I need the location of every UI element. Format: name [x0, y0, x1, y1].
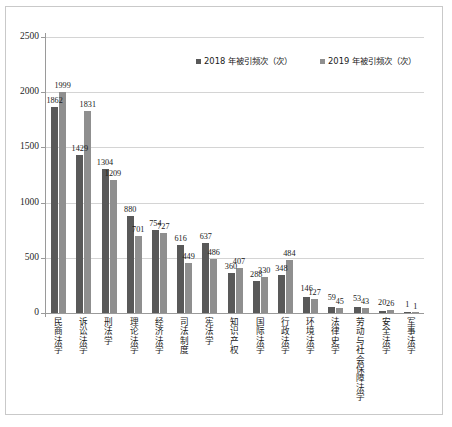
x-axis-category-label: 行政法学 [278, 317, 287, 355]
x-axis-category: 经济法学 [152, 317, 166, 359]
x-axis-category: 司法制度 [178, 317, 192, 359]
bar-value-label: 1429 [69, 145, 91, 153]
bar-group [51, 37, 66, 313]
bar-value-label: 1862 [44, 97, 66, 105]
bar-group [76, 37, 91, 313]
legend-item-2019[interactable]: 2019 年被引频次（次） [320, 57, 416, 66]
bar-group [354, 37, 369, 313]
grouped-bar-chart: 05001000150020002500 2018 年被引频次（次） 2019 … [0, 0, 452, 427]
bar-group [177, 37, 192, 313]
x-axis-category: 宪法学 [203, 317, 217, 349]
bar-group [228, 37, 243, 313]
bar-2019[interactable] [236, 268, 243, 313]
y-axis-tick-label: 2500 [20, 32, 39, 42]
x-axis-category-label: 国际法学 [253, 317, 262, 355]
bar-value-label: 1999 [52, 82, 74, 90]
y-axis-labels: 05001000150020002500 [0, 0, 39, 427]
x-axis-category-label: 军事法学 [404, 317, 413, 355]
bar-2018[interactable] [354, 307, 361, 313]
bar-2019[interactable] [387, 310, 394, 313]
x-axis-category-label: 法律史学 [329, 317, 338, 355]
x-axis-category: 行政法学 [278, 317, 292, 359]
y-axis-tick [41, 313, 45, 314]
x-axis-category-label: 知识产权 [228, 317, 237, 355]
x-axis-category: 刑法学 [102, 317, 116, 349]
x-axis-category: 安全法学 [379, 317, 393, 359]
bar-value-label: 1209 [102, 170, 124, 178]
bar-2018[interactable] [303, 297, 310, 313]
bar-2019[interactable] [135, 236, 142, 313]
bar-group [404, 37, 419, 313]
x-axis-category-label: 司法制度 [178, 317, 187, 355]
x-axis-category-label: 理论法学 [127, 317, 136, 355]
y-axis-tick [41, 92, 45, 93]
bar-2019[interactable] [336, 308, 343, 313]
x-axis-category-label: 安全法学 [379, 317, 388, 355]
bar-2018[interactable] [379, 311, 386, 313]
bar-value-label: 880 [119, 206, 141, 214]
x-axis-category: 环境法学 [304, 317, 318, 359]
x-axis-category: 国际法学 [253, 317, 267, 359]
bar-2018[interactable] [76, 155, 83, 313]
bar-2018[interactable] [404, 312, 411, 313]
bar-group [303, 37, 318, 313]
bar-value-label: 407 [228, 258, 250, 266]
bar-2018[interactable] [102, 169, 109, 313]
bar-2018[interactable] [228, 273, 235, 313]
x-axis-category: 法律史学 [329, 317, 343, 359]
bar-2018[interactable] [253, 281, 260, 313]
bar-value-label: 1831 [77, 101, 99, 109]
y-axis-tick-label: 2000 [20, 87, 39, 97]
bar-group [328, 37, 343, 313]
x-axis-category-label: 刑法学 [102, 317, 111, 345]
y-axis-tick-label: 1000 [20, 198, 39, 208]
y-axis-tick [41, 37, 45, 38]
bar-2019[interactable] [362, 308, 369, 313]
bar-2018[interactable] [278, 275, 285, 313]
bar-2019[interactable] [160, 233, 167, 313]
x-axis-category: 军事法学 [404, 317, 418, 359]
y-axis-tick-label: 1500 [20, 142, 39, 152]
x-axis-line [45, 313, 424, 314]
legend-label-2018: 2018 年被引频次（次） [204, 57, 292, 66]
bar-2018[interactable] [51, 107, 58, 313]
bar-value-label: 616 [170, 235, 192, 243]
bar-2019[interactable] [84, 111, 91, 313]
x-axis-category-label: 诉讼法学 [77, 317, 86, 355]
bar-2019[interactable] [412, 312, 419, 313]
bar-group [202, 37, 217, 313]
bar-value-label: 1304 [94, 159, 116, 167]
bar-value-label: 727 [152, 223, 174, 231]
bar-2019[interactable] [110, 180, 117, 313]
x-axis-category-label: 环境法学 [304, 317, 313, 355]
x-axis-category-label: 民商法学 [52, 317, 61, 355]
bar-2019[interactable] [311, 299, 318, 313]
legend-swatch-2019 [320, 59, 325, 64]
bar-2018[interactable] [152, 230, 159, 313]
bar-2019[interactable] [185, 263, 192, 313]
bar-value-label: 484 [278, 250, 300, 258]
bar-value-label: 1 [404, 303, 426, 311]
legend-swatch-2018 [196, 59, 201, 64]
x-axis-category-label: 劳动与社会保障法学 [354, 317, 363, 402]
chart-legend: 2018 年被引频次（次） 2019 年被引频次（次） [196, 55, 416, 67]
bar-value-label: 486 [203, 249, 225, 257]
legend-label-2019: 2019 年被引频次（次） [328, 57, 416, 66]
bar-2019[interactable] [210, 259, 217, 313]
y-axis-tick [41, 147, 45, 148]
y-axis-tick-label: 500 [25, 253, 39, 263]
x-axis-category-label: 经济法学 [152, 317, 161, 355]
x-axis-category: 民商法学 [52, 317, 66, 359]
bar-value-label: 637 [195, 233, 217, 241]
bar-2018[interactable] [328, 307, 335, 314]
bar-group [379, 37, 394, 313]
bar-value-label: 449 [178, 253, 200, 261]
legend-item-2018[interactable]: 2018 年被引频次（次） [196, 57, 292, 66]
x-axis-category: 诉讼法学 [77, 317, 91, 359]
bar-2019[interactable] [59, 92, 66, 313]
x-axis-category: 知识产权 [228, 317, 242, 359]
y-axis-tick [41, 203, 45, 204]
bar-value-label: 348 [270, 265, 292, 273]
y-axis-tick-label: 0 [34, 308, 39, 318]
bar-2019[interactable] [261, 277, 268, 313]
